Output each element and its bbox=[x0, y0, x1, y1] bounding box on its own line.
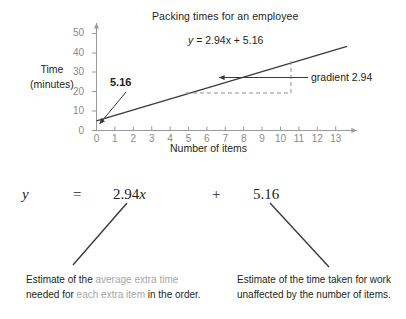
caption-intercept-line1: Estimate of the time taken for work bbox=[237, 272, 391, 287]
figure-canvas: Packing times for an employee y = 2.94x … bbox=[0, 0, 406, 319]
x-tick-label: 3 bbox=[145, 134, 159, 144]
equation-term-y: y bbox=[22, 186, 29, 203]
intercept-callout-label: 5.16 bbox=[110, 76, 131, 88]
x-tick-label: 4 bbox=[163, 134, 177, 144]
x-tick-label: 0 bbox=[90, 134, 104, 144]
caption-slope-line2: needed for each extra item in the order. bbox=[26, 287, 201, 302]
chart-equation-rest: = 2.94x + 5.16 bbox=[193, 34, 263, 46]
equation-slope-number: 2.94 bbox=[113, 186, 139, 202]
y-tick-label: 10 bbox=[62, 106, 84, 116]
caption-slope-line1-pre: Estimate of the bbox=[26, 274, 95, 285]
y-tick-label: 30 bbox=[62, 67, 84, 77]
caption-slope-line1-highlight: average extra time bbox=[95, 274, 178, 285]
chart-title: Packing times for an employee bbox=[152, 10, 298, 22]
y-tick-label: 0 bbox=[62, 126, 84, 136]
caption-slope-line2-post: in the order. bbox=[145, 289, 201, 300]
gradient-callout-label: gradient 2.94 bbox=[311, 71, 372, 83]
caption-slope-line1: Estimate of the average extra time bbox=[26, 272, 201, 287]
equation-term-intercept: 5.16 bbox=[253, 186, 279, 203]
y-tick-label: 40 bbox=[62, 48, 84, 58]
x-tick-label: 10 bbox=[274, 134, 288, 144]
equation-term-slope: 2.94x bbox=[113, 186, 146, 203]
x-tick-label: 13 bbox=[329, 134, 343, 144]
x-tick-label: 6 bbox=[200, 134, 214, 144]
intercept-leader-arrow bbox=[100, 92, 127, 124]
x-tick-label: 8 bbox=[237, 134, 251, 144]
connector-intercept bbox=[270, 203, 329, 267]
equation-plus-sign: + bbox=[212, 186, 220, 203]
equation-equals-sign: = bbox=[73, 186, 81, 203]
equation-breakdown-row: y = 2.94x + 5.16 bbox=[0, 186, 406, 208]
y-tick-label: 50 bbox=[62, 28, 84, 38]
gradient-triangle bbox=[186, 61, 291, 93]
x-tick-label: 1 bbox=[108, 134, 122, 144]
regression-line bbox=[97, 46, 348, 121]
connector-slope bbox=[73, 203, 127, 265]
x-tick-label: 5 bbox=[182, 134, 196, 144]
y-axis bbox=[92, 23, 97, 131]
caption-slope-line2-pre: needed for bbox=[26, 289, 77, 300]
caption-intercept-line2: unaffected by the number of items. bbox=[237, 287, 391, 302]
y-tick-label: 20 bbox=[62, 87, 84, 97]
x-tick-label: 12 bbox=[310, 134, 324, 144]
equation-slope-variable: x bbox=[139, 186, 146, 202]
x-axis bbox=[97, 127, 358, 131]
caption-intercept: Estimate of the time taken for work unaf… bbox=[237, 272, 391, 302]
caption-slope: Estimate of the average extra time neede… bbox=[26, 272, 201, 302]
caption-slope-line2-highlight: each extra item bbox=[77, 289, 145, 300]
x-tick-label: 2 bbox=[126, 134, 140, 144]
chart-equation-label: y = 2.94x + 5.16 bbox=[188, 34, 263, 46]
x-tick-label: 11 bbox=[292, 134, 306, 144]
x-tick-label: 9 bbox=[255, 134, 269, 144]
x-tick-label: 7 bbox=[218, 134, 232, 144]
